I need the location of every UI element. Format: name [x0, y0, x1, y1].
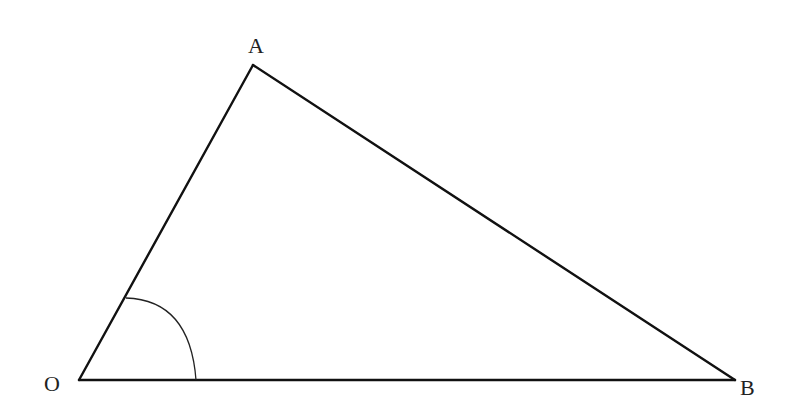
triangle-diagram: A O B [0, 0, 806, 414]
vertex-label-a: A [248, 33, 264, 58]
side-oa [79, 65, 253, 380]
triangle-sides [79, 65, 735, 380]
side-ab [253, 65, 735, 380]
angle-arc-o [126, 298, 196, 380]
vertex-label-b: B [740, 375, 755, 400]
vertex-label-o: O [44, 371, 60, 396]
